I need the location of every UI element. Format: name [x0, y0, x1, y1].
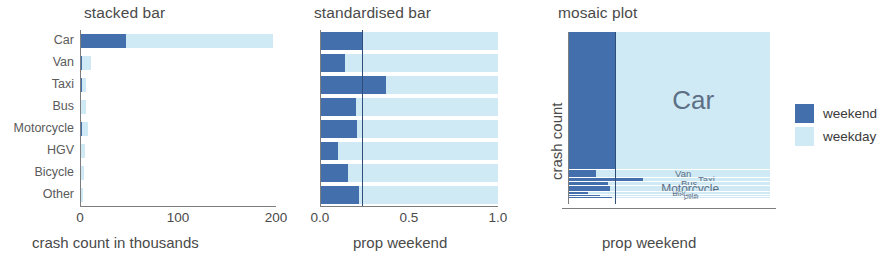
stacked-bar-row: [80, 78, 276, 92]
bar-segment-weekend: [80, 34, 126, 48]
legend-label: weekend: [823, 106, 877, 121]
y-axis-label-mosaic: crash count: [548, 102, 565, 180]
x-axis-tick-label: 0: [55, 210, 105, 225]
y-axis-category-label: Other: [0, 187, 74, 201]
legend-swatch: [795, 104, 814, 123]
stacked-bar-row: [80, 188, 276, 202]
panel-title-standardised-bar: standardised bar: [314, 4, 431, 22]
panel-stacked-bar: stacked bar CarVanTaxiBusMotorcycleHGVBi…: [0, 0, 300, 256]
x-axis-tick-label: 1.0: [473, 210, 523, 225]
mosaic-tile-weekend: [568, 32, 616, 170]
y-axis-category-label: Taxi: [0, 77, 74, 91]
x-axis-line-panel1: [80, 206, 276, 207]
bar-segment-weekday: [359, 186, 498, 205]
standardised-bar-row: [320, 142, 498, 161]
y-axis-category-label: Car: [0, 33, 74, 47]
stacked-bar-row: [80, 144, 276, 158]
panel-standardised-bar: standardised bar 0.00.51.0 prop weekend: [300, 0, 540, 256]
mosaic-tile-weekend: [568, 197, 612, 198]
standardised-bar-row: [320, 54, 498, 73]
y-axis-category-label: Bicycle: [0, 165, 74, 179]
bar-segment-weekday: [345, 54, 498, 73]
bar-segment-weekday: [81, 188, 82, 202]
bar-segment-weekend: [320, 164, 348, 183]
legend-swatch: [795, 127, 814, 146]
x-axis-label-panel3: prop weekend: [602, 234, 696, 251]
x-axis-tick-label: 200: [251, 210, 301, 225]
mosaic-tile-weekday: [612, 197, 770, 198]
bar-segment-weekday: [82, 56, 91, 70]
bar-segment-weekday: [357, 120, 498, 139]
reference-line-panel3: [615, 32, 616, 204]
bar-segment-weekday: [81, 100, 86, 114]
panel-mosaic-plot: mosaic plot crash count CarVanTaxiBusMot…: [540, 0, 800, 256]
x-axis-tick-label: 100: [153, 210, 203, 225]
stacked-bar-row: [80, 122, 276, 136]
bar-segment-weekday: [81, 144, 85, 158]
y-axis-category-label: Motorcycle: [0, 121, 74, 135]
bar-segment-weekend: [320, 76, 386, 95]
panel-title-stacked-bar: stacked bar: [84, 4, 165, 22]
bar-segment-weekend: [320, 54, 345, 73]
x-axis-tick-label: 0.0: [295, 210, 345, 225]
bar-segment-weekend: [320, 142, 338, 161]
y-axis-category-label: Van: [0, 55, 74, 69]
bar-segment-weekday: [81, 166, 84, 180]
stacked-bar-row: [80, 34, 276, 48]
plot-area-stacked-bar: [80, 30, 276, 206]
bar-segment-weekday: [82, 78, 86, 92]
standardised-bar-row: [320, 164, 498, 183]
x-axis-line-panel2: [320, 206, 498, 207]
plot-area-mosaic: CarVanTaxiBusMotorcycleHGVBicycleOther: [568, 32, 770, 204]
bar-segment-weekday: [363, 32, 498, 51]
standardised-bar-row: [320, 120, 498, 139]
x-axis-line-panel3: [562, 208, 776, 209]
mosaic-row: Car: [568, 32, 770, 170]
bar-segment-weekend: [320, 98, 356, 117]
bar-segment-weekday: [356, 98, 498, 117]
stacked-bar-row: [80, 166, 276, 180]
reference-line-panel2: [362, 30, 363, 206]
legend-item[interactable]: weekday: [795, 127, 876, 146]
bar-segment-weekend: [320, 32, 363, 51]
x-axis-label-panel1: crash count in thousands: [32, 234, 199, 251]
legend-item[interactable]: weekend: [795, 104, 877, 123]
x-axis-label-panel2: prop weekend: [353, 234, 447, 251]
mosaic-tile-weekday: [616, 32, 770, 170]
plot-area-standardised-bar: [320, 30, 498, 206]
legend: weekendweekday: [795, 104, 885, 150]
bar-segment-weekday: [82, 122, 88, 136]
bar-segment-weekday: [348, 164, 498, 183]
y-axis-category-label: HGV: [0, 143, 74, 157]
standardised-bar-row: [320, 32, 498, 51]
y-axis-line-panel3: [568, 32, 569, 204]
standardised-bar-row: [320, 98, 498, 117]
figure-canvas: stacked bar CarVanTaxiBusMotorcycleHGVBi…: [0, 0, 886, 256]
standardised-bar-row: [320, 186, 498, 205]
bar-segment-weekday: [386, 76, 498, 95]
bar-segment-weekend: [320, 186, 359, 205]
legend-label: weekday: [823, 129, 876, 144]
y-axis-line-panel2: [320, 30, 321, 206]
stacked-bar-row: [80, 56, 276, 70]
y-axis-line-panel1: [80, 30, 81, 206]
x-axis-tick-label: 0.5: [384, 210, 434, 225]
stacked-bar-row: [80, 100, 276, 114]
standardised-bar-row: [320, 76, 498, 95]
y-axis-category-label: Bus: [0, 99, 74, 113]
bar-segment-weekend: [320, 120, 357, 139]
panel-title-mosaic-plot: mosaic plot: [558, 4, 638, 22]
mosaic-row: Other: [568, 197, 770, 198]
bar-segment-weekday: [126, 34, 273, 48]
